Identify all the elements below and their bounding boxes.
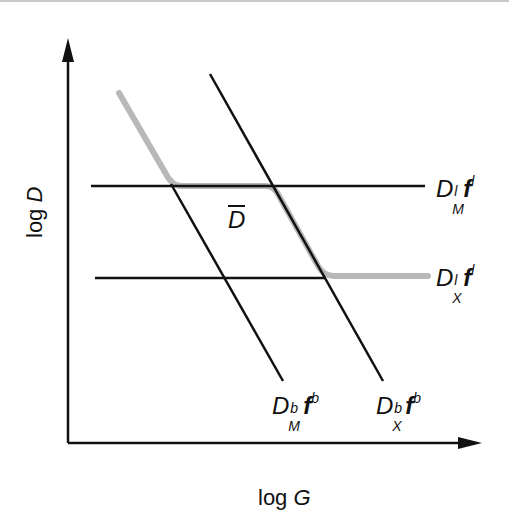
diagram-canvas bbox=[0, 0, 509, 525]
label-DMl-fl: DlMfl bbox=[436, 175, 474, 203]
line-DMb-fb bbox=[171, 184, 283, 381]
y-axis-label: log D bbox=[22, 187, 48, 238]
label-DXl-fl: DlXfl bbox=[436, 264, 474, 292]
curve-label-dbar: D bbox=[228, 205, 245, 234]
x-axis-arrow-icon bbox=[458, 437, 482, 449]
label-DMb-fb: DbMfb bbox=[272, 392, 319, 420]
x-axis-label: log G bbox=[258, 487, 311, 509]
y-axis-arrow-icon bbox=[62, 38, 74, 62]
label-DXb-fb: DbXfb bbox=[376, 392, 421, 420]
